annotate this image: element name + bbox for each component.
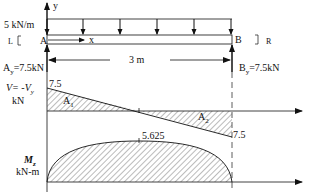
point-a-label: A (40, 36, 47, 46)
area-a1-label: A1 (63, 96, 74, 110)
point-b-label: B (235, 35, 242, 45)
shear-start-value: 7.5 (49, 79, 62, 89)
diagram-canvas (0, 0, 314, 196)
shear-end-value: 7.5 (233, 130, 246, 140)
moment-axis-unit: kN-m (16, 167, 39, 177)
shear-diagram (47, 88, 302, 137)
reaction-b-label: By=7.5kN (239, 63, 280, 77)
x-axis-label: x (89, 35, 94, 45)
moment-peak-value: 5.625 (142, 131, 165, 141)
area-a2-label: A2 (198, 112, 209, 126)
left-support-label: L (8, 37, 13, 47)
moment-diagram (47, 138, 302, 182)
y-axis-label: y (53, 1, 58, 11)
distributed-load (47, 19, 232, 34)
right-support-label: R (266, 37, 271, 47)
load-label: 5 kN/m (4, 20, 34, 30)
left-support-bracket (18, 36, 21, 45)
reaction-a-label: Ay=7.5kN (3, 63, 44, 77)
beam (47, 35, 232, 44)
right-support-bracket (255, 35, 258, 44)
span-label: 3 m (129, 55, 144, 65)
shear-axis-unit: kN (12, 96, 24, 106)
